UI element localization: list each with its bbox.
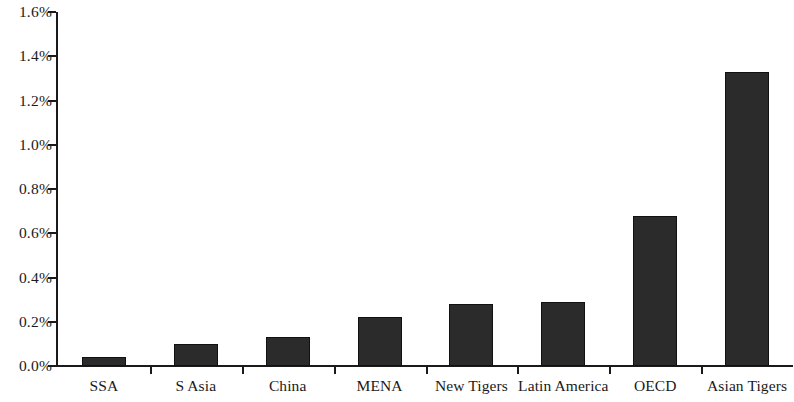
x-axis-tick-mark: [334, 367, 336, 374]
y-axis-tick-mark: [48, 100, 56, 102]
bar-chart: 0.0%0.2%0.4%0.6%0.8%1.0%1.2%1.4%1.6% SSA…: [0, 0, 794, 402]
y-axis-tick-mark: [48, 188, 56, 190]
y-axis-tick-mark: [48, 365, 56, 367]
x-axis-category-label: MENA: [334, 376, 426, 396]
x-axis-tick-mark: [150, 367, 152, 374]
bar: [82, 357, 126, 366]
x-axis-category-label: SSA: [58, 376, 150, 396]
y-axis-tick-mark: [48, 144, 56, 146]
bar: [449, 304, 493, 366]
bar: [358, 317, 402, 366]
x-axis-tick-mark: [609, 367, 611, 374]
x-axis-category-label: New Tigers: [426, 376, 518, 396]
bar: [633, 216, 677, 366]
y-axis-tick-mark: [48, 55, 56, 57]
x-axis-category-label: OECD: [609, 376, 701, 396]
y-axis-tick-mark: [48, 321, 56, 323]
x-axis-tick-mark: [242, 367, 244, 374]
y-axis-tick-mark: [48, 11, 56, 13]
y-axis-tick-mark: [48, 277, 56, 279]
x-axis-category-label: China: [242, 376, 334, 396]
x-axis-category-label: S Asia: [150, 376, 242, 396]
bar: [174, 344, 218, 366]
y-axis-tick-mark: [48, 232, 56, 234]
x-axis-tick-mark: [426, 367, 428, 374]
x-axis-category-label: Latin America: [517, 376, 609, 396]
x-axis-tick-mark: [517, 367, 519, 374]
x-axis-category-label: Asian Tigers: [701, 376, 793, 396]
plot-area: [58, 12, 793, 366]
bar: [541, 302, 585, 366]
bar: [725, 72, 769, 366]
x-axis-tick-mark: [701, 367, 703, 374]
bar: [266, 337, 310, 366]
